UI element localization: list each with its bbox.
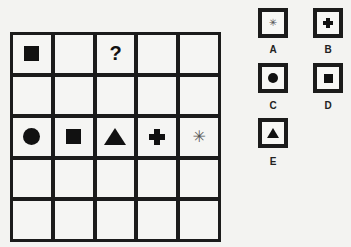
option-c-label: C (258, 100, 288, 111)
circle-icon (23, 128, 40, 145)
grid-cell-r4c4 (138, 160, 176, 198)
grid-cell-r3c1 (13, 118, 51, 156)
grid-cell-r2c2 (55, 77, 93, 115)
grid-cell-r3c4 (138, 118, 176, 156)
option-d-label: D (313, 100, 343, 111)
circle-icon (268, 73, 278, 83)
grid-cell-r3c5: ✳ (180, 118, 218, 156)
grid-cell-r5c2 (55, 201, 93, 239)
grid-cell-r3c2 (55, 118, 93, 156)
triangle-icon (267, 128, 279, 138)
grid-cell-r3c3 (97, 118, 135, 156)
grid-cell-r2c5 (180, 77, 218, 115)
option-e-label: E (258, 156, 288, 167)
square-icon (324, 74, 333, 83)
square-icon (66, 129, 81, 144)
asterisk-icon: ✳ (192, 129, 205, 145)
grid-cell-r1c1 (13, 35, 51, 73)
option-a-box[interactable]: ✳ (258, 8, 288, 38)
puzzle-grid: ? ✳ (10, 32, 221, 242)
grid-cell-r4c1 (13, 160, 51, 198)
grid-cell-r1c4 (138, 35, 176, 73)
option-d-box[interactable] (313, 63, 343, 93)
grid-cell-r5c1 (13, 201, 51, 239)
grid-cell-r5c4 (138, 201, 176, 239)
option-b-label: B (313, 44, 343, 55)
question-mark: ? (109, 42, 121, 65)
grid-cell-r4c3 (97, 160, 135, 198)
plus-icon (149, 129, 165, 145)
plus-icon (323, 18, 333, 28)
option-e-box[interactable] (258, 118, 288, 148)
grid-cell-r2c4 (138, 77, 176, 115)
grid-cell-r1c2 (55, 35, 93, 73)
option-c-box[interactable] (258, 63, 288, 93)
grid-cell-r5c3 (97, 201, 135, 239)
grid-cell-r1c5 (180, 35, 218, 73)
grid-cell-r5c5 (180, 201, 218, 239)
option-a-label: A (258, 44, 288, 55)
grid-cell-r4c5 (180, 160, 218, 198)
grid-cell-r2c1 (13, 77, 51, 115)
grid-cell-r4c2 (55, 160, 93, 198)
asterisk-icon: ✳ (269, 18, 277, 28)
square-icon (24, 46, 39, 61)
grid-cell-r1c3: ? (97, 35, 135, 73)
option-b-box[interactable] (313, 8, 343, 38)
grid-cell-r2c3 (97, 77, 135, 115)
triangle-icon (104, 128, 126, 145)
